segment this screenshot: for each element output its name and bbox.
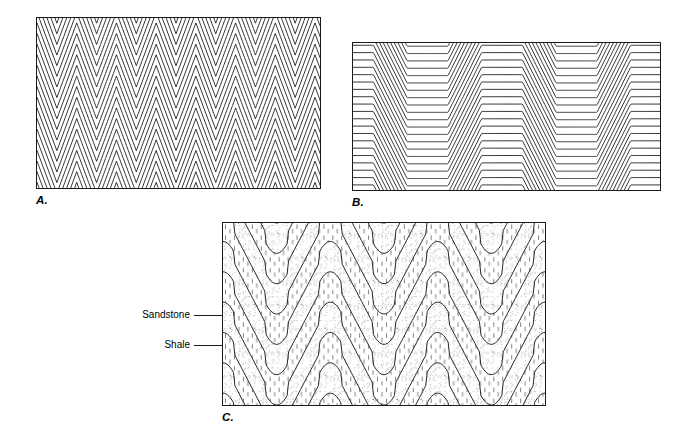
figure-root: A. B. C. Sandstone Shale (0, 0, 685, 445)
panel-c-drawing (223, 223, 545, 405)
panel-b-label: B. (352, 196, 364, 208)
panel-b-kink-folds (352, 42, 661, 191)
shale-leader-line (194, 345, 222, 346)
panel-c-lithology-folds (222, 222, 546, 406)
sandstone-label: Sandstone (118, 309, 190, 320)
sandstone-leader-line (194, 315, 222, 316)
shale-label: Shale (118, 339, 190, 350)
panel-c-label: C. (222, 411, 234, 423)
panel-a-drawing (37, 18, 320, 188)
panel-a-label: A. (36, 194, 48, 206)
panel-b-drawing (353, 43, 660, 190)
panel-a-chevron-folds (36, 17, 321, 189)
